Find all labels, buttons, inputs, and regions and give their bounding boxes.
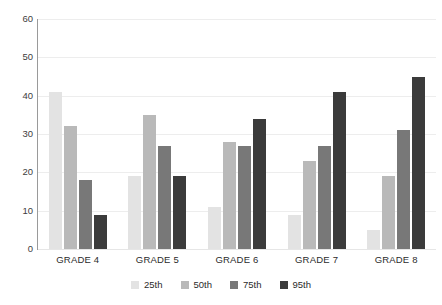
bar-grade-8-25th	[367, 230, 380, 249]
x-tick-label-grade-4: GRADE 4	[38, 254, 118, 265]
y-tick-label-60: 60	[3, 14, 33, 24]
bar-grade-4-95th	[94, 215, 107, 250]
bar-grade-6-75th	[238, 146, 251, 250]
legend-swatch-icon-25th	[131, 281, 139, 289]
y-tick-label-40: 40	[3, 91, 33, 101]
bar-grade-8-50th	[382, 176, 395, 249]
bar-grade-8-75th	[397, 130, 410, 249]
bar-grade-7-75th	[318, 146, 331, 250]
bar-group-grade-4	[38, 19, 118, 249]
bar-grade-7-50th	[303, 161, 316, 249]
legend-label-75th: 75th	[243, 280, 262, 290]
bar-grade-5-50th	[143, 115, 156, 249]
x-tick-label-grade-8: GRADE 8	[356, 254, 436, 265]
x-tick-label-grade-6: GRADE 6	[197, 254, 277, 265]
legend-item-95th[interactable]: 95th	[280, 280, 312, 290]
gridline-0	[38, 249, 436, 250]
x-tick-label-grade-5: GRADE 5	[118, 254, 198, 265]
bar-grade-4-75th	[79, 180, 92, 249]
legend-label-25th: 25th	[144, 280, 163, 290]
bar-group-grade-6	[197, 19, 277, 249]
legend-item-50th[interactable]: 50th	[181, 280, 213, 290]
bar-chart: 0102030405060 GRADE 4GRADE 5GRADE 6GRADE…	[0, 0, 442, 305]
bar-grade-6-25th	[208, 207, 221, 249]
bar-group-grade-7	[277, 19, 357, 249]
legend-item-25th[interactable]: 25th	[131, 280, 163, 290]
legend-swatch-icon-50th	[181, 281, 189, 289]
bar-grade-6-95th	[253, 119, 266, 249]
legend-item-75th[interactable]: 75th	[230, 280, 262, 290]
bar-grade-5-95th	[173, 176, 186, 249]
legend-swatch-icon-75th	[230, 281, 238, 289]
plot-area	[38, 19, 436, 249]
chart-legend: 25th50th75th95th	[0, 280, 442, 290]
bar-grade-5-25th	[128, 176, 141, 249]
bar-grade-7-25th	[288, 215, 301, 250]
bar-grade-7-95th	[333, 92, 346, 249]
bar-grade-6-50th	[223, 142, 236, 249]
legend-swatch-icon-95th	[280, 281, 288, 289]
legend-label-95th: 95th	[293, 280, 312, 290]
bar-group-grade-8	[356, 19, 436, 249]
y-tick-label-20: 20	[3, 167, 33, 177]
y-tick-label-30: 30	[3, 129, 33, 139]
y-tick-label-10: 10	[3, 206, 33, 216]
y-tick-label-50: 50	[3, 52, 33, 62]
bar-grade-5-75th	[158, 146, 171, 250]
bar-grade-8-95th	[412, 77, 425, 250]
bar-grade-4-50th	[64, 126, 77, 249]
bar-group-grade-5	[118, 19, 198, 249]
legend-label-50th: 50th	[194, 280, 213, 290]
bar-grade-4-25th	[49, 92, 62, 249]
x-tick-label-grade-7: GRADE 7	[277, 254, 357, 265]
y-axis-tick-labels: 0102030405060	[0, 19, 33, 249]
y-tick-label-0: 0	[3, 244, 33, 254]
